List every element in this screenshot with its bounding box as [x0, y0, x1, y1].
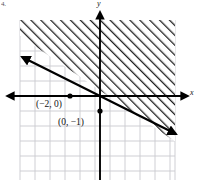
coordinate-plane-svg — [0, 0, 197, 181]
point-label-b: (0, −1) — [58, 117, 84, 127]
graph-figure: 4. — [0, 0, 197, 181]
y-axis-label: y — [97, 0, 101, 8]
point-marker-b — [97, 108, 102, 113]
x-axis-label: x — [190, 88, 194, 97]
point-marker-a — [67, 93, 72, 98]
point-label-a: (−2, 0) — [36, 99, 62, 109]
